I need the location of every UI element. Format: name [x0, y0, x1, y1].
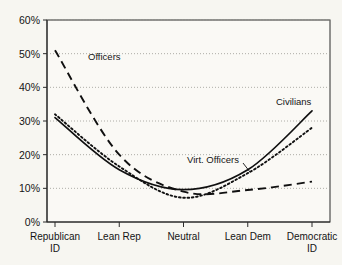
y-axis-tick-label: 10%: [19, 182, 40, 194]
series-label-civilians: Civilians: [276, 96, 312, 107]
y-axis-tick-label: 50%: [19, 48, 40, 60]
x-axis-category-label: Neutral: [167, 231, 199, 242]
y-axis-tick-label: 40%: [19, 81, 40, 93]
series-label-officers: Officers: [88, 51, 121, 62]
x-axis-category-label: Lean Rep: [98, 231, 142, 242]
x-axis-category-label: Lean Dem: [225, 231, 271, 242]
x-axis-tick-marks: [55, 222, 312, 227]
line-chart: 0%10%20%30%40%50%60% RepublicanIDLean Re…: [0, 0, 342, 265]
series-label-virt-officers: Virt. Officers: [187, 154, 239, 165]
chart-container: 0%10%20%30%40%50%60% RepublicanIDLean Re…: [0, 0, 342, 265]
x-axis-category-label: Republican: [30, 231, 80, 242]
y-axis-tick-label: 0%: [25, 216, 40, 228]
y-axis-tick-label: 30%: [19, 115, 40, 127]
x-axis-category-label: Democratic: [287, 231, 338, 242]
y-axis-tick-label: 60%: [19, 14, 40, 26]
y-axis-tick-label: 20%: [19, 149, 40, 161]
x-axis-category-label: ID: [307, 243, 317, 254]
x-axis-category-label: ID: [50, 243, 60, 254]
y-axis-tick-labels: 0%10%20%30%40%50%60%: [19, 14, 47, 228]
x-axis-category-labels: RepublicanIDLean RepNeutralLean DemDemoc…: [30, 231, 337, 254]
